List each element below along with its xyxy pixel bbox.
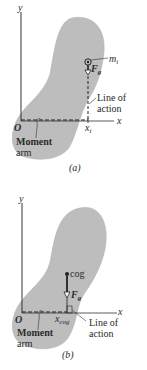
center-of-gravity-icon — [65, 272, 69, 276]
line-of-action-label-a-line2: action — [97, 104, 121, 114]
particle-mi-dot — [87, 61, 89, 63]
force-label-b-sub: g — [78, 294, 82, 302]
force-label-b-main: F — [71, 289, 78, 300]
force-label-a-main: F — [91, 63, 98, 74]
cog-label: cog — [70, 269, 84, 279]
caption-b: (b) — [62, 350, 74, 360]
force-label-a: Fg — [91, 64, 101, 75]
particle-label-sub: i — [116, 58, 118, 66]
line-of-action-label-a-line1: Line of — [97, 93, 126, 103]
caption-a: (a) — [69, 163, 81, 173]
moment-arm-label-b-line2: arm — [17, 339, 33, 349]
y-axis-label-b: y — [19, 194, 23, 204]
force-label-b: Fg — [71, 290, 81, 301]
moment-arm-label-a-line2: arm — [16, 148, 32, 158]
moment-arm-label-a-line1: Moment — [16, 137, 52, 147]
origin-label-b: O — [15, 315, 22, 325]
particle-label: mi — [109, 54, 118, 65]
y-axis-label-a: y — [18, 3, 22, 13]
x-axis-label-a: x — [117, 116, 121, 126]
line-of-action-label-b-line2: action — [89, 329, 113, 339]
force-label-a-sub: g — [98, 68, 102, 76]
x-axis-label-b: x — [118, 307, 122, 317]
line-of-action-label-b-line1: Line of — [89, 318, 118, 328]
position-label-a-sub: i — [89, 127, 91, 135]
position-label-b: xcog — [55, 314, 70, 325]
origin-label-a: O — [14, 123, 21, 133]
position-label-a: xi — [85, 123, 91, 134]
moment-arm-label-b-line1: Moment — [17, 328, 53, 338]
leader-line-of-action-a — [89, 98, 96, 104]
position-label-b-sub: cog — [59, 318, 69, 326]
